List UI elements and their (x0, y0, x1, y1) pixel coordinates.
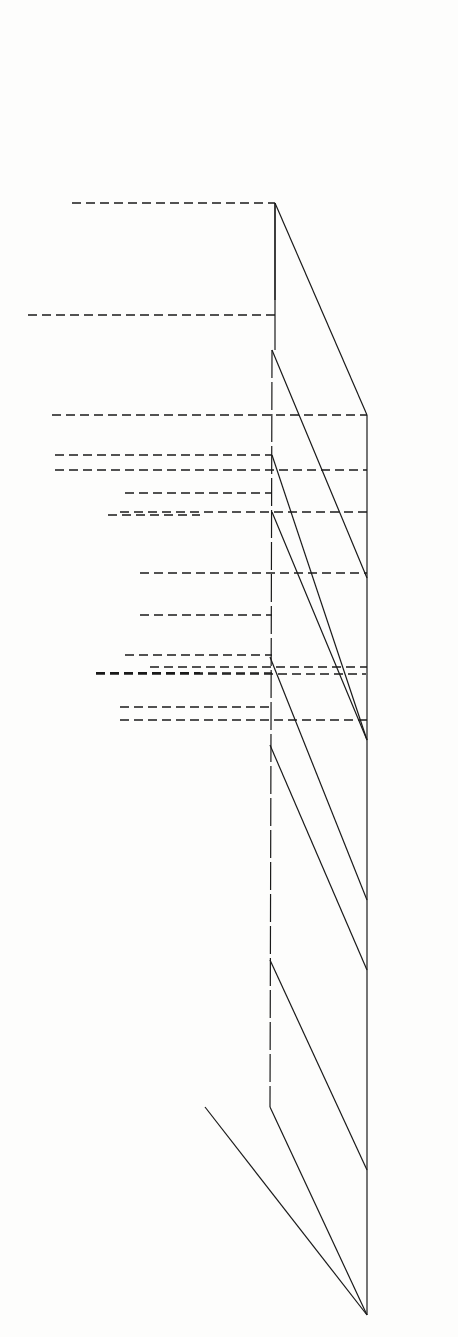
base-edge-s-r (205, 1107, 367, 1315)
energy-surface-figure (0, 0, 458, 1337)
dashed-energy-lines (28, 203, 367, 720)
grid-diagonal (272, 350, 367, 578)
base-edge-q-p (275, 203, 367, 415)
base-plane (205, 203, 367, 1315)
grid-diagonal (272, 512, 367, 740)
energy-surface-svg (0, 0, 458, 1337)
base-edge-r-q (270, 350, 272, 1107)
